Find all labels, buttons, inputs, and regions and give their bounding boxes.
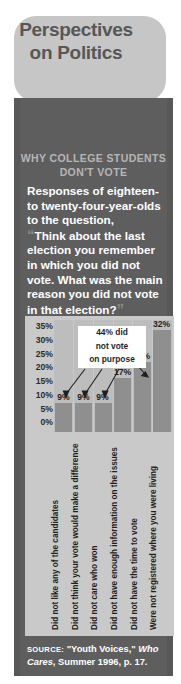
lead-quote: Think about the last election you rememb… [27,229,163,316]
title-line-2: on Politics [0,41,152,64]
title-line-1: Perspectives [0,18,152,41]
bar-chart: 35% 30% 25% 20% 15% 10% 5% 0% [25,316,174,636]
callout-line-3: on purpose [78,353,146,367]
dark-panel: WHY COLLEGE STUDENTS DON'T VOTE Response… [14,98,173,676]
y-tick: 35% [27,320,53,334]
infographic-root: Perspectives on Politics WHY COLLEGE STU… [0,0,181,684]
source-citation: SOURCE: "Youth Voices," Who Cares, Summe… [27,643,167,669]
x-label-0: Did not like any of the candidates [51,500,60,630]
dark-panel-inner: WHY COLLEGE STUDENTS DON'T VOTE Response… [20,98,167,676]
page-title: Perspectives on Politics [0,18,152,64]
kicker-heading: WHY COLLEGE STUDENTS DON'T VOTE [20,151,167,179]
y-tick: 0% [27,416,53,430]
lead-intro: Responses of eighteen- to twenty-four-ye… [27,184,161,226]
callout-line-2: not vote [78,340,146,354]
y-axis-tick-labels: 35% 30% 25% 20% 15% 10% 5% 0% [27,320,53,430]
callout-line-1: 44% did [78,326,146,340]
kicker-line-2: DON'T VOTE [20,165,167,179]
callout-box: 44% did not vote on purpose [78,326,146,368]
source-pre: "Youth Voices," [64,644,138,654]
y-tick: 20% [27,361,53,375]
y-tick: 5% [27,403,53,417]
y-tick: 30% [27,334,53,348]
y-tick: 15% [27,375,53,389]
x-label-5: Were not registered where you were livin… [149,466,158,630]
source-label: SOURCE: [27,645,64,654]
x-label-3: Did not have enough information on the i… [110,447,119,630]
y-tick: 25% [27,348,53,362]
y-tick: 10% [27,389,53,403]
kicker-line-1: WHY COLLEGE STUDENTS [20,151,167,165]
x-label-1: Did not think your vote would make a dif… [71,443,80,630]
x-axis-category-labels: Did not like any of the candidates Did n… [54,434,172,632]
open-quote-mark: “ [27,226,35,243]
plot-area: 9% 9% 9% 17% 22% 32% [54,320,172,432]
x-label-2: Did not care who won [90,545,99,630]
close-quote-mark: ” [117,300,125,317]
x-label-4: Did not have the time to vote [130,518,139,630]
lead-paragraph: Responses of eighteen- to twenty-four-ye… [27,184,164,317]
source-post: , Summer 1996, p. 17. [53,657,148,667]
